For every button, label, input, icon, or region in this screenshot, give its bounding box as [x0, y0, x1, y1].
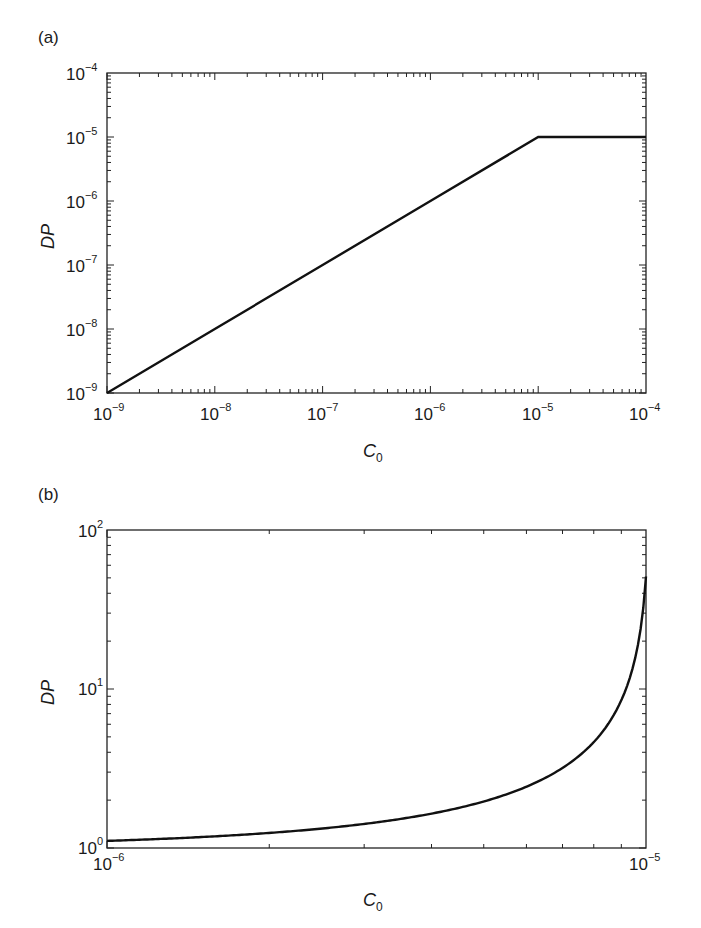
a-x-axis-label: C0: [363, 441, 383, 465]
b-xtick-1e-6: 10−6: [93, 853, 124, 875]
b-ytick-1e2: 102: [78, 520, 103, 542]
b-x-axis-label: C0: [363, 890, 383, 914]
a-xtick-1e-8: 10−8: [200, 403, 231, 425]
chart-canvas: [0, 0, 701, 928]
a-ytick-1e-6: 10−6: [66, 191, 97, 213]
plot-b: [107, 530, 646, 848]
a-xtick-1e-9: 10−9: [93, 403, 124, 425]
a-dp-curve: [107, 137, 646, 393]
b-dp-curve: [107, 576, 646, 840]
b-xtick-1e-5: 10−5: [629, 853, 660, 875]
b-y-axis-label: DP: [38, 680, 59, 705]
a-ytick-1e-7: 10−7: [66, 255, 97, 277]
a-ytick-1e-8: 10−8: [66, 319, 97, 341]
a-ytick-1e-9: 10−9: [66, 383, 97, 405]
a-xtick-1e-6: 10−6: [414, 403, 445, 425]
panel-b-label: (b): [38, 485, 59, 505]
a-xtick-1e-5: 10−5: [522, 403, 553, 425]
b-ytick-1e1: 101: [78, 678, 103, 700]
a-xtick-1e-4: 10−4: [629, 403, 660, 425]
a-y-axis-label: DP: [38, 224, 59, 249]
a-ytick-1e-5: 10−5: [66, 127, 97, 149]
a-ytick-1e-4: 10−4: [66, 63, 97, 85]
a-xtick-1e-7: 10−7: [307, 403, 338, 425]
plot-a: [107, 73, 646, 393]
